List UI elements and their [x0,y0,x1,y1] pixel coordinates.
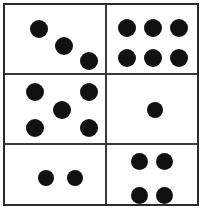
pip [80,52,98,70]
pip [131,153,148,170]
pip [53,101,71,119]
divider-horizontal-upper [5,73,197,75]
pip [118,19,136,37]
pip [144,49,162,67]
pip [170,19,188,37]
pip [80,119,98,137]
pip [118,49,136,67]
pip [38,170,54,186]
cell-bottom-right [107,147,202,209]
pip [26,83,44,101]
cell-bottom-left [10,147,105,209]
pip [144,19,162,37]
cell-top-left [10,10,105,73]
pip [156,153,173,170]
cell-middle-left [10,77,105,143]
dice-face-grid-figure [0,0,206,213]
pip [55,37,73,55]
pip [80,83,98,101]
pip [147,102,163,118]
pip [30,20,48,38]
grid-outer-frame [3,3,199,206]
pip [131,187,148,204]
divider-horizontal-lower [5,143,197,145]
cell-top-right [107,10,202,73]
cell-middle-right [107,77,202,143]
pip [67,170,83,186]
pip [170,49,188,67]
pip [26,119,44,137]
pip [156,187,173,204]
